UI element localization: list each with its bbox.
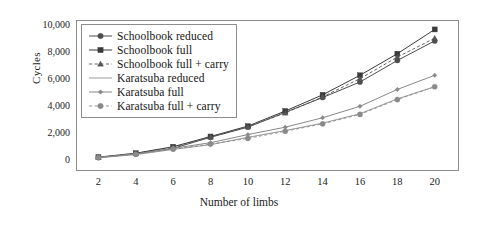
legend-item-label: Schoolbook reduced	[114, 30, 213, 42]
x-tick-label: 10	[233, 176, 263, 187]
x-tick-label: 12	[270, 176, 300, 187]
y-tick-label: 10,000	[24, 20, 70, 30]
legend-item: Karatsuba full + carry	[87, 99, 229, 113]
legend-marker-icon	[87, 43, 114, 57]
y-tick-label: 8,000	[24, 47, 70, 57]
legend-item: Karatsuba reduced	[87, 71, 229, 85]
chart-legend: Schoolbook reducedSchoolbook fullSchoolb…	[81, 24, 237, 118]
y-tick-label: 2,000	[24, 128, 70, 138]
x-tick-label: 16	[345, 176, 375, 187]
legend-marker-icon	[87, 29, 114, 43]
y-tick-label: 4,000	[24, 101, 70, 111]
legend-item: Schoolbook full + carry	[87, 57, 229, 71]
legend-marker-icon	[87, 85, 114, 99]
x-tick-label: 6	[158, 176, 188, 187]
x-tick-label: 14	[308, 176, 338, 187]
x-tick-label: 8	[196, 176, 226, 187]
y-tick-label: 6,000	[24, 74, 70, 84]
legend-item-label: Schoolbook full + carry	[114, 58, 229, 70]
legend-item: Schoolbook reduced	[87, 29, 229, 43]
legend-item-label: Karatsuba full	[114, 86, 184, 98]
x-tick-label: 18	[382, 176, 412, 187]
legend-item: Karatsuba full	[87, 85, 229, 99]
legend-marker-icon	[87, 71, 114, 85]
x-tick-label: 20	[420, 176, 450, 187]
legend-item-label: Karatsuba reduced	[114, 72, 205, 84]
legend-item-label: Schoolbook full	[114, 44, 192, 56]
y-tick-label: 0	[24, 155, 70, 165]
legend-marker-icon	[87, 57, 114, 71]
y-axis-ticks: 02,0004,0006,0008,00010,000	[22, 0, 70, 225]
legend-item: Schoolbook full	[87, 43, 229, 57]
legend-marker-icon	[87, 99, 114, 113]
x-tick-label: 4	[121, 176, 151, 187]
x-axis-label: Number of limbs	[0, 196, 478, 208]
legend-item-label: Karatsuba full + carry	[114, 100, 221, 112]
chart-figure: Cycles 02,0004,0006,0008,00010,000 24681…	[0, 0, 478, 225]
x-tick-label: 2	[83, 176, 113, 187]
